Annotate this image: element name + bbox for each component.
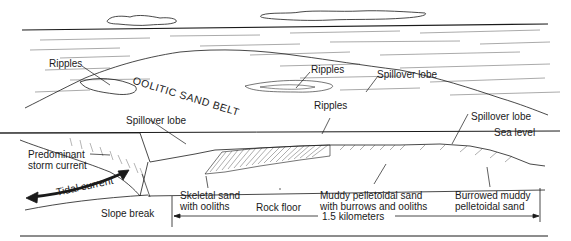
label-line-1: Muddy pelletoidal sand bbox=[320, 190, 427, 201]
label-line-1: Skeletal sand bbox=[180, 190, 240, 201]
scale-arrow-right bbox=[533, 214, 539, 218]
label-spillover-lobe-top: Spillover lobe bbox=[377, 69, 437, 80]
cloud-left bbox=[107, 15, 176, 25]
label-line-1: Burrowed muddy bbox=[455, 190, 531, 201]
tidal-arrowhead-left bbox=[26, 192, 38, 203]
label-rock-floor: Rock floor bbox=[256, 202, 301, 213]
ripple-field-center-inner bbox=[260, 85, 315, 90]
label-spillover-lobe-left: Spillover lobe bbox=[126, 115, 186, 126]
label-predominant-storm-current: Predominant storm current bbox=[28, 149, 87, 171]
oolite-hatching bbox=[210, 145, 512, 172]
label-spillover-lobe-right: Spillover lobe bbox=[471, 111, 531, 122]
label-line-2: with ooliths bbox=[180, 201, 240, 212]
label-line-2: pelletoidal sand bbox=[455, 201, 531, 212]
label-sea-level: Sea level bbox=[494, 127, 535, 138]
horizon-line bbox=[22, 24, 548, 30]
label-muddy-pelletoidal-sand: Muddy pelletoidal sand with burrows and … bbox=[320, 190, 427, 212]
ripple-field-left bbox=[80, 79, 136, 95]
ripple-field-center bbox=[245, 80, 333, 92]
label-line-2: storm current bbox=[28, 160, 87, 171]
label-ripples-center-top: Ripples bbox=[311, 64, 344, 75]
label-slope-break: Slope break bbox=[101, 208, 154, 219]
label-skeletal-sand: Skeletal sand with ooliths bbox=[180, 190, 240, 212]
label-ripples-center: Ripples bbox=[314, 100, 347, 111]
scale-arrow-left bbox=[174, 214, 180, 218]
cloud-right bbox=[261, 11, 426, 21]
label-scale-1-5-km: 1.5 kilometers bbox=[322, 211, 384, 222]
sea-surface-strokes bbox=[30, 30, 560, 95]
label-ripples-left: Ripples bbox=[49, 58, 82, 69]
sand-belt-margin bbox=[25, 50, 548, 115]
label-line-1: Predominant bbox=[28, 149, 87, 160]
label-burrowed-muddy-pelletoidal-sand: Burrowed muddy pelletoidal sand bbox=[455, 190, 531, 212]
